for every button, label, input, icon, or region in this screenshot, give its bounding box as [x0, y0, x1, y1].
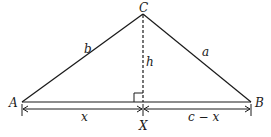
side-a	[143, 14, 251, 102]
label-a: a	[202, 45, 209, 59]
label-X: X	[138, 119, 148, 133]
side-b	[22, 14, 143, 102]
right-angle-marker	[134, 93, 143, 102]
label-x: x	[81, 110, 88, 124]
label-B: B	[254, 96, 264, 110]
label-A: A	[8, 96, 18, 110]
label-h: h	[146, 55, 154, 69]
label-C: C	[139, 1, 148, 15]
label-b: b	[84, 42, 92, 56]
triangle-diagram: C A B X b a h x c − x	[0, 0, 271, 137]
label-c-minus-x: c − x	[188, 110, 219, 124]
